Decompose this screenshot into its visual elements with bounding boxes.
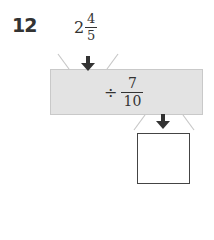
- down-arrow-icon: [156, 114, 170, 129]
- operation-fraction: 7 10: [121, 76, 143, 109]
- answer-box[interactable]: [137, 133, 190, 184]
- down-arrow-icon: [81, 56, 95, 71]
- operation: ÷ 7 10: [104, 76, 143, 109]
- operation-denominator: 10: [123, 94, 141, 109]
- divide-icon: ÷: [104, 83, 117, 102]
- operation-numerator: 7: [128, 76, 137, 91]
